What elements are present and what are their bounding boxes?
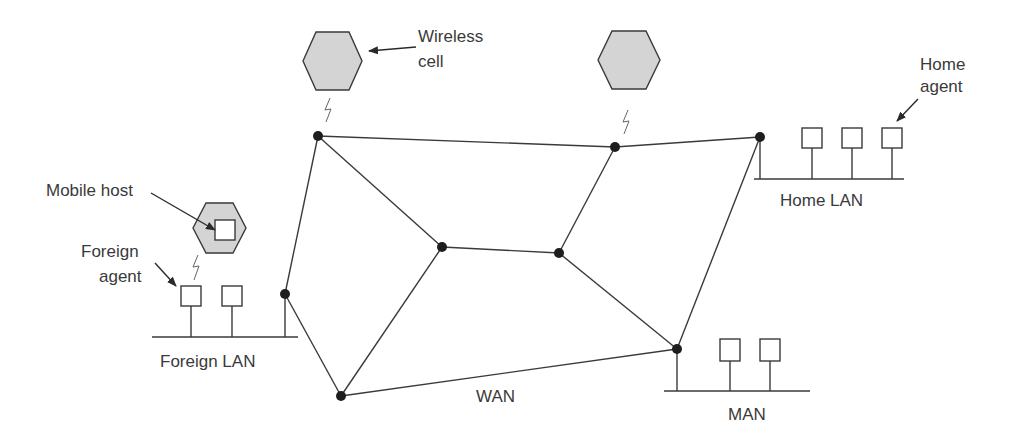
home-agent-host bbox=[882, 128, 902, 148]
home-agent-annotation: Home agent bbox=[897, 55, 965, 121]
lightning-icon bbox=[325, 98, 331, 122]
link-n3-n8 bbox=[677, 137, 760, 349]
mobile-host bbox=[215, 220, 235, 240]
router-node bbox=[336, 391, 346, 401]
man-host-2 bbox=[760, 339, 780, 361]
wireless-cell-arrow-icon bbox=[369, 47, 416, 51]
link-n1-n6 bbox=[285, 136, 318, 294]
router-node bbox=[610, 142, 620, 152]
router-node bbox=[437, 242, 447, 252]
foreign-lan-label: Foreign LAN bbox=[160, 352, 255, 371]
home-host-2 bbox=[842, 128, 862, 148]
foreign-host-2 bbox=[222, 286, 242, 306]
foreign-lan: Foreign LAN bbox=[152, 286, 298, 371]
man-label: MAN bbox=[728, 405, 766, 424]
wireless-cell-label-line2: cell bbox=[418, 52, 444, 71]
man-host-1 bbox=[720, 339, 740, 361]
network-diagram: Home LAN Home agent MAN Foreign LAN Fore… bbox=[0, 0, 1011, 443]
link-n4-n5 bbox=[442, 247, 559, 253]
mobile-host-label: Mobile host bbox=[46, 181, 133, 200]
hexagon-cell-icon bbox=[303, 32, 362, 90]
router-nodes bbox=[280, 131, 765, 401]
wireless-cell-2 bbox=[598, 31, 660, 134]
foreign-agent-host bbox=[181, 286, 201, 306]
router-node bbox=[755, 132, 765, 142]
foreign-agent-label-line1: Foreign bbox=[81, 242, 139, 261]
link-n6-n7 bbox=[285, 294, 341, 396]
link-n1-n2 bbox=[318, 136, 615, 147]
router-node bbox=[313, 131, 323, 141]
home-agent-label-line1: Home bbox=[920, 55, 965, 74]
link-n2-n3 bbox=[615, 137, 760, 147]
wireless-cell-label-line1: Wireless bbox=[418, 27, 483, 46]
lightning-icon bbox=[193, 255, 199, 280]
router-node bbox=[280, 289, 290, 299]
home-agent-arrow-icon bbox=[897, 99, 918, 121]
hexagon-cell-icon bbox=[598, 31, 660, 89]
router-node bbox=[672, 344, 682, 354]
wan-links bbox=[285, 136, 760, 396]
lightning-icon bbox=[623, 110, 629, 134]
home-lan: Home LAN bbox=[754, 128, 904, 210]
mobile-host-cell: Mobile host bbox=[46, 181, 246, 280]
link-n2-n5 bbox=[559, 147, 615, 253]
home-agent-label-line2: agent bbox=[920, 77, 963, 96]
wan-label: WAN bbox=[476, 387, 515, 406]
foreign-agent-label-line2: agent bbox=[99, 267, 142, 286]
home-lan-label: Home LAN bbox=[780, 191, 863, 210]
man: MAN bbox=[664, 339, 810, 424]
home-host-1 bbox=[802, 128, 822, 148]
foreign-agent-annotation: Foreign agent bbox=[81, 242, 176, 286]
link-n4-n7 bbox=[341, 247, 442, 396]
link-n1-n4 bbox=[318, 136, 442, 247]
router-node bbox=[554, 248, 564, 258]
wireless-cell-1: Wireless cell bbox=[303, 27, 483, 122]
link-n5-n8 bbox=[559, 253, 677, 349]
foreign-agent-arrow-icon bbox=[155, 263, 176, 286]
